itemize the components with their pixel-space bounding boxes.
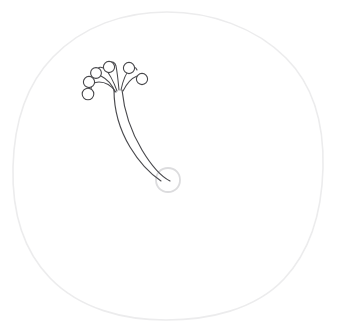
- stamen-line-drawing: [0, 0, 338, 335]
- anther-6: [136, 73, 147, 84]
- anther-3: [91, 68, 102, 79]
- anther-2: [82, 88, 94, 100]
- drawing-canvas: [0, 0, 338, 335]
- anther-4: [103, 61, 114, 72]
- anther-5: [123, 62, 134, 73]
